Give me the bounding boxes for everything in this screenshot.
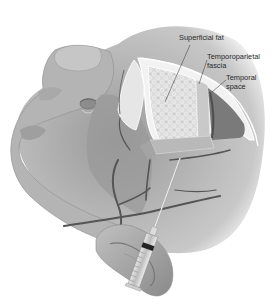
label-line: space bbox=[226, 83, 256, 92]
label-superficial-fat: Superficial fat bbox=[179, 34, 224, 43]
anatomical-illustration: Superficial fat Temporoparietal fascia T… bbox=[0, 0, 276, 305]
label-temporoparietal-fascia: Temporoparietal fascia bbox=[207, 53, 260, 70]
nose-shape bbox=[55, 45, 102, 71]
temporoparietal-fascia-layer bbox=[196, 80, 210, 140]
label-temporal-space: Temporal space bbox=[226, 74, 256, 91]
label-line: Superficial fat bbox=[179, 34, 224, 43]
head-dissection-drawing bbox=[0, 0, 276, 305]
label-line: fascia bbox=[207, 62, 260, 71]
